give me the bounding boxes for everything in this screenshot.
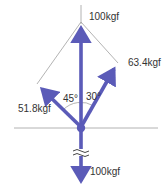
right-angle-label: 30° xyxy=(86,91,101,102)
up-force-label: 100kgf xyxy=(89,11,119,22)
force-diagram: 100kgf 63.4kgf 51.8kgf 100kgf 45° 30° xyxy=(0,0,168,195)
parallelogram-right-guide xyxy=(81,22,118,63)
down-force-label: 100kgf xyxy=(90,166,120,177)
left-force-label: 51.8kgf xyxy=(18,103,51,114)
parallelogram-left-guide xyxy=(37,22,81,84)
right-force-label: 63.4kgf xyxy=(128,57,161,68)
center-joint xyxy=(77,124,85,132)
left-angle-label: 45° xyxy=(63,93,78,104)
